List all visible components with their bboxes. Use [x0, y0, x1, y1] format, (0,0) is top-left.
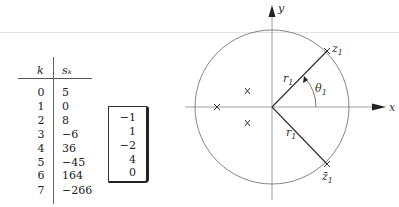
- r1-lower-label: r1: [286, 126, 296, 141]
- x-axis-label: x: [389, 101, 396, 114]
- radius-to-z1: [272, 51, 327, 107]
- theta1-label: θ1: [315, 82, 327, 97]
- y-axis-arrow-icon: [269, 5, 276, 17]
- x-axis-arrow-icon: [372, 104, 386, 111]
- zbar1-label: z̄1: [321, 170, 333, 185]
- radius-to-zbar1: [272, 107, 327, 164]
- r1-upper-label: r1: [283, 72, 293, 87]
- angle-arrow-icon: [303, 76, 308, 83]
- y-axis-label: y: [277, 2, 285, 15]
- complex-plane-diagram: y x z1 z̄1 r1 r1 θ1: [0, 0, 399, 207]
- z1-label: z1: [331, 42, 343, 57]
